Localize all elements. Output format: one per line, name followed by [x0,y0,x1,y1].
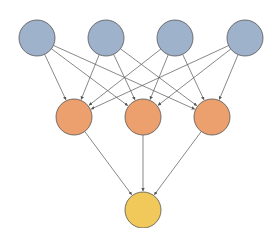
output-node-o1 [125,192,161,228]
edge-i3-h1 [89,49,161,105]
nodes [19,20,263,228]
input-node-i1 [19,20,55,56]
hidden-node-h2 [125,99,161,135]
edge-i3-h3 [183,54,204,99]
edge-i1-h1 [45,54,66,99]
edge-i4-h2 [158,49,231,105]
edge-h1-o1 [85,131,132,194]
hidden-node-h1 [56,99,92,135]
edge-i3-h2 [150,55,168,100]
edge-i2-h3 [120,49,196,106]
edge-i4-h3 [219,55,238,100]
hidden-node-h3 [194,99,230,135]
edge-i2-h1 [81,55,99,100]
edge-h3-o1 [154,131,201,194]
edge-i2-h2 [114,54,135,99]
neural-network-diagram [0,0,274,228]
input-node-i2 [88,20,124,56]
input-node-i3 [157,20,193,56]
input-node-i4 [227,20,263,56]
